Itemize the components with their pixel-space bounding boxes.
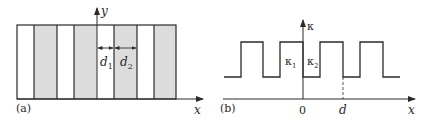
panel-b-tag: (b) <box>220 102 236 115</box>
period-d-label: d <box>339 103 347 117</box>
panel-b: κ x (b) 0 d κ1 κ2 <box>220 20 415 117</box>
panel-a: y x (a) d1 d2 <box>16 4 203 117</box>
x-axis-label: x <box>408 103 415 117</box>
stripe-medium-2 <box>74 25 97 99</box>
stripe-medium-2 <box>154 25 176 99</box>
kappa-axis-label: κ <box>307 20 314 33</box>
origin-label: 0 <box>299 104 306 117</box>
d1-label: d1 <box>100 55 113 71</box>
stripe-medium-2 <box>34 25 57 99</box>
panel-a-tag: (a) <box>16 102 31 115</box>
y-axis-label: y <box>100 4 108 18</box>
kappa1-label: κ1 <box>285 55 296 70</box>
kappa2-label: κ2 <box>307 55 318 70</box>
figure: y x (a) d1 d2 κ x (b) 0 d κ1 κ2 <box>0 0 427 126</box>
x-axis-label: x <box>194 103 201 117</box>
